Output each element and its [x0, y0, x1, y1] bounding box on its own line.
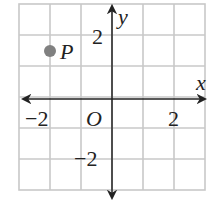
coordinate-plane: P y x O 2 −2 −2 2	[0, 0, 220, 208]
y-axis-label: y	[116, 4, 128, 29]
point-p-label: P	[59, 39, 73, 64]
origin-label: O	[86, 106, 102, 131]
x-axis-label: x	[195, 70, 206, 95]
tick-label-y-neg: −2	[74, 146, 97, 171]
tick-label-x-neg: −2	[25, 106, 48, 131]
tick-label-y-pos: 2	[92, 24, 103, 49]
point-p-marker	[44, 45, 56, 57]
tick-label-x-pos: 2	[168, 106, 179, 131]
